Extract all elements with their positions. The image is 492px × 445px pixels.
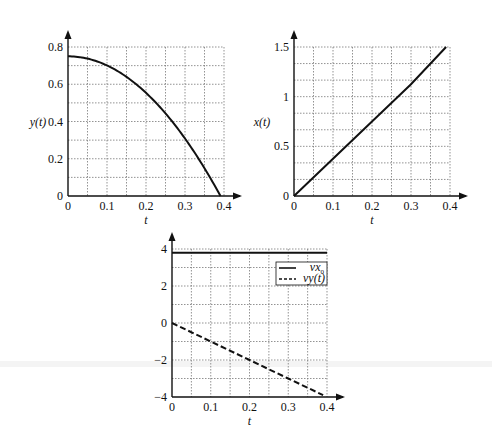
x-tick-label: 0.1 xyxy=(203,400,218,414)
y-tick-label: 0.6 xyxy=(48,77,63,91)
x-axis-arrow-icon xyxy=(459,193,468,200)
x-tick-label: 0.3 xyxy=(281,400,296,414)
x-tick-label: 0.4 xyxy=(320,400,335,414)
y-tick-label: 4 xyxy=(161,242,167,256)
y-tick-label: 0 xyxy=(161,316,167,330)
y-tick-label: 0.8 xyxy=(48,40,63,54)
x-tick-label: 0.1 xyxy=(326,199,341,213)
x-tick-label: 0.3 xyxy=(404,199,419,213)
plot-velocity-vs-t: 00.10.20.30.4−4−2024tvx0vy(t) xyxy=(154,232,345,428)
x-tick-label: 0.3 xyxy=(178,199,193,213)
y-axis-label: x(t) xyxy=(253,115,271,129)
series-line-xt xyxy=(294,47,446,196)
y-tick-label: −2 xyxy=(154,353,167,367)
x-tick-label: 0 xyxy=(169,400,175,414)
x-axis-arrow-icon xyxy=(336,394,345,401)
y-axis-arrow-icon xyxy=(291,30,298,39)
series-line-vyt xyxy=(172,323,323,395)
plot-x-vs-t: 00.10.20.30.400.511.5tx(t) xyxy=(253,30,468,227)
x-tick-label: 0.1 xyxy=(100,199,115,213)
y-tick-label: 1.5 xyxy=(274,40,289,54)
figure: 00.10.20.30.400.20.40.60.8ty(t) 00.10.20… xyxy=(0,0,492,445)
x-tick-label: 0 xyxy=(291,199,297,213)
y-tick-label: 0.4 xyxy=(48,115,63,129)
x-tick-label: 0.4 xyxy=(217,199,232,213)
legend: vx0vy(t) xyxy=(276,260,327,285)
y-tick-label: 0.5 xyxy=(274,139,289,153)
x-axis-arrow-icon xyxy=(233,193,242,200)
legend-label-vy: vy(t) xyxy=(303,271,325,285)
y-axis-label: y(t) xyxy=(29,115,47,129)
x-axis-label: t xyxy=(144,213,148,227)
y-tick-label: −4 xyxy=(154,390,167,404)
x-tick-label: 0 xyxy=(65,199,71,213)
x-tick-label: 0.2 xyxy=(139,199,154,213)
x-tick-label: 0.2 xyxy=(365,199,380,213)
y-tick-label: 0 xyxy=(57,189,63,203)
y-tick-label: 0 xyxy=(283,189,289,203)
y-tick-label: 1 xyxy=(283,90,289,104)
scan-artifact xyxy=(0,361,492,367)
x-axis-label: t xyxy=(370,213,374,227)
y-tick-label: 2 xyxy=(161,279,167,293)
y-axis-arrow-icon xyxy=(65,30,72,39)
plot-y-vs-t: 00.10.20.30.400.20.40.60.8ty(t) xyxy=(29,30,242,227)
series-line-yt xyxy=(68,56,220,196)
y-axis-arrow-icon xyxy=(169,232,176,241)
y-tick-label: 0.2 xyxy=(48,152,63,166)
x-axis-label: t xyxy=(248,414,252,428)
x-tick-label: 0.2 xyxy=(242,400,257,414)
x-tick-label: 0.4 xyxy=(443,199,458,213)
